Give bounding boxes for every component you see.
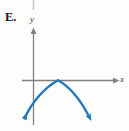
y-axis-label: y: [30, 15, 34, 24]
x-axis-label: x: [120, 75, 124, 84]
graph-canvas: [0, 0, 129, 131]
graph-figure: E. y x: [0, 0, 129, 131]
